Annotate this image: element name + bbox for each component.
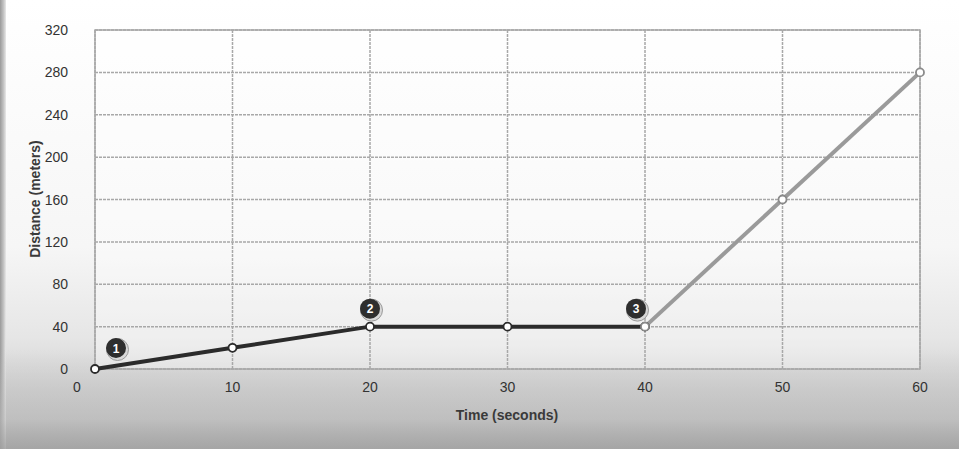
data-point <box>641 323 649 331</box>
y-tick-label: 200 <box>45 149 69 165</box>
x-tick-label: 50 <box>775 379 791 395</box>
marker-badge-2: 2 <box>360 299 383 322</box>
x-tick-label: 10 <box>225 379 241 395</box>
data-point <box>229 344 237 352</box>
y-axis-ticks: 04080120160200240280320 <box>45 22 69 377</box>
svg-text:3: 3 <box>633 302 640 316</box>
distance-time-chart: 04080120160200240280320 0102030405060 12… <box>0 0 959 449</box>
x-tick-label: 20 <box>362 379 378 395</box>
data-point <box>916 68 924 76</box>
x-axis-ticks: 0102030405060 <box>73 379 928 395</box>
y-axis-label: Distance (meters) <box>27 140 43 258</box>
data-point <box>504 323 512 331</box>
data-point <box>91 365 99 373</box>
svg-text:1: 1 <box>113 342 120 356</box>
y-tick-label: 280 <box>45 64 69 80</box>
y-tick-label: 0 <box>60 361 68 377</box>
y-tick-label: 240 <box>45 107 69 123</box>
x-tick-label: 40 <box>637 379 653 395</box>
x-tick-label: 30 <box>500 379 516 395</box>
marker-badge-1: 1 <box>106 338 129 361</box>
y-tick-label: 120 <box>45 234 69 250</box>
marker-badge-3: 3 <box>626 299 649 322</box>
y-tick-label: 320 <box>45 22 69 38</box>
y-tick-label: 40 <box>52 319 68 335</box>
y-tick-label: 80 <box>52 276 68 292</box>
x-tick-label: 0 <box>73 379 81 395</box>
x-axis-label: Time (seconds) <box>456 407 558 423</box>
y-tick-label: 160 <box>45 192 69 208</box>
data-point <box>779 196 787 204</box>
data-point <box>366 323 374 331</box>
svg-text:2: 2 <box>367 302 374 316</box>
grid <box>95 30 920 369</box>
x-tick-label: 60 <box>912 379 928 395</box>
